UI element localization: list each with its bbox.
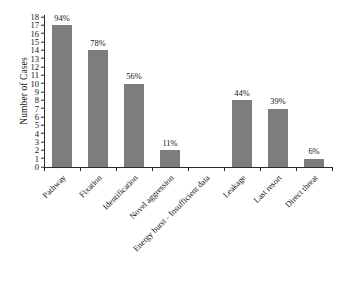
x-axis-label-slot: Last resort — [260, 172, 296, 282]
bar-slot: 6% — [296, 17, 332, 167]
bar — [124, 84, 144, 167]
y-axis-tick: 3 — [35, 138, 44, 147]
bar-slot — [188, 17, 224, 167]
y-axis-tick: 15 — [30, 38, 44, 47]
y-axis-tick-label: 15 — [30, 38, 41, 47]
x-axis-label-slot: Identification — [116, 172, 152, 282]
y-axis-tick: 18 — [30, 13, 44, 22]
x-axis-tick-mark — [188, 167, 189, 171]
y-axis-tick: 5 — [35, 121, 44, 130]
x-axis-label-slot: Energy burst - Insufficient data — [188, 172, 224, 282]
bar-value-label: 94% — [54, 15, 69, 23]
x-axis-label: Leakage — [222, 174, 248, 200]
y-axis-tick: 16 — [30, 29, 44, 38]
bar-slot: 56% — [116, 17, 152, 167]
y-axis-tick: 13 — [30, 54, 44, 63]
x-axis-label: Pathway — [42, 174, 68, 200]
y-axis-tick-label: 16 — [30, 29, 41, 38]
bar-slot: 11% — [152, 17, 188, 167]
bar-slot: 44% — [224, 17, 260, 167]
bar — [88, 50, 108, 167]
x-axis-tick-mark — [260, 167, 261, 171]
y-axis-tick-label: 17 — [30, 21, 41, 30]
y-axis-tick: 0 — [35, 163, 44, 172]
y-axis-tick: 6 — [35, 113, 44, 122]
bar — [232, 100, 252, 167]
y-axis-tick: 11 — [31, 71, 44, 80]
y-axis-tick: 17 — [30, 21, 44, 30]
x-axis-tick-mark — [44, 167, 45, 171]
bar — [304, 159, 324, 167]
x-axis-tick-mark — [116, 167, 117, 171]
bar-value-label: 6% — [308, 148, 319, 156]
y-axis-tick-label: 14 — [30, 46, 41, 55]
x-axis-label-slot: Leakage — [224, 172, 260, 282]
bar-value-label: 78% — [90, 40, 105, 48]
x-axis-tick-mark — [332, 167, 333, 171]
bar-slot: 39% — [260, 17, 296, 167]
bar-value-label: 44% — [234, 90, 249, 98]
bar — [268, 109, 288, 167]
y-axis-tick-label: 13 — [30, 54, 41, 63]
bar-slot: 78% — [80, 17, 116, 167]
y-axis-title: Number of Cases — [19, 21, 29, 161]
bar-value-label: 39% — [270, 98, 285, 106]
x-axis-label-slot: Pathway — [44, 172, 80, 282]
y-axis-tick-label: 10 — [30, 79, 41, 88]
x-axis-label-slot: Direct threat — [296, 172, 332, 282]
y-axis-tick: 12 — [30, 63, 44, 72]
x-axis-labels: PathwayFixationIdentificationNovel aggre… — [44, 172, 332, 282]
bar-series: 94%78%56%11%44%39%6% — [44, 17, 332, 167]
y-axis-tick: 10 — [30, 79, 44, 88]
y-axis-tick: 8 — [35, 96, 44, 105]
bar — [160, 150, 180, 167]
x-axis-tick-mark — [296, 167, 297, 171]
x-axis-label: Fixation — [78, 174, 104, 200]
y-axis-tick-label: 11 — [31, 71, 41, 80]
y-axis-tick: 2 — [35, 146, 44, 155]
y-axis-tick: 7 — [35, 104, 44, 113]
bar — [52, 25, 72, 167]
x-axis-tick-mark — [152, 167, 153, 171]
y-axis-tick: 4 — [35, 129, 44, 138]
x-axis-tick-mark — [80, 167, 81, 171]
bar-value-label: 56% — [126, 73, 141, 81]
x-axis-tick-mark — [224, 167, 225, 171]
bar-slot: 94% — [44, 17, 80, 167]
y-axis-tick-label: 18 — [30, 13, 41, 22]
y-axis-tick-label: 12 — [30, 63, 41, 72]
bar-value-label: 11% — [162, 140, 177, 148]
y-axis-tick: 14 — [30, 46, 44, 55]
bar-chart: Number of Cases 012345678910111213141516… — [0, 0, 342, 285]
x-axis-label-slot: Fixation — [80, 172, 116, 282]
y-axis-tick: 9 — [35, 88, 44, 97]
y-axis-tick: 1 — [35, 154, 44, 163]
